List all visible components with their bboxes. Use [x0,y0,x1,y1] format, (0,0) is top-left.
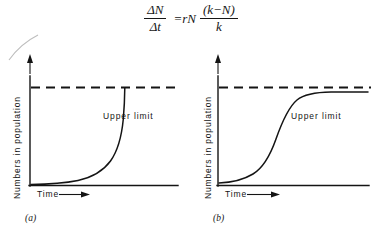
x-axis-label-a: Time [37,189,59,199]
equation-rhs-denominator: k [213,19,225,34]
chart-panel-a: Upper limit Numbers in population Time (… [0,50,191,239]
equation-lhs-denominator: Δt [147,19,164,34]
j-curve-a [31,88,125,185]
equation-inner: ΔN Δt =rN (k−N) k [144,3,238,34]
panel-caption-a: (a) [25,213,36,223]
growth-equation: ΔN Δt =rN (k−N) k [0,2,382,34]
equation-lhs-numerator: ΔN [144,3,166,19]
y-axis-label-b: Numbers in population [203,96,213,199]
y-axis-label-a: Numbers in population [12,96,22,199]
panel-caption-b: (b) [213,213,224,223]
equation-operator: =rN [169,11,197,27]
s-curve-b [219,92,368,183]
y-axis-arrow-a [27,54,33,74]
equation-rhs-numerator: (k−N) [200,3,238,19]
x-axis-arrow-b [247,192,280,198]
upper-limit-label-b: Upper limit [291,111,342,121]
x-axis-label-b: Time [225,189,247,199]
equation-right-fraction: (k−N) k [200,3,238,34]
figure-root: ΔN Δt =rN (k−N) k [0,0,382,239]
upper-limit-label-a: Upper limit [103,111,154,121]
y-axis-arrow-b [215,54,221,74]
x-axis-arrow-a [59,192,90,198]
chart-panel-b: Upper limit Numbers in population Time (… [191,50,382,239]
equation-left-fraction: ΔN Δt [144,3,166,34]
